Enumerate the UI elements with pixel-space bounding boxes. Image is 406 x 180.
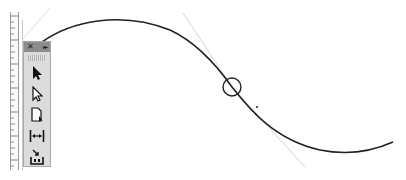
direction-handle-lower[interactable] xyxy=(232,87,305,167)
gap-tool[interactable] xyxy=(27,127,47,145)
selection-tool[interactable] xyxy=(27,64,47,82)
solid-arrow-icon xyxy=(29,65,45,81)
page-icon xyxy=(29,107,45,123)
handle-line-left xyxy=(22,8,50,40)
vertical-ruler[interactable] xyxy=(10,12,19,170)
tools-panel: ✕ ▸▸ xyxy=(23,41,51,167)
panel-grip[interactable] xyxy=(28,55,46,61)
content-collector-tool[interactable] xyxy=(27,148,47,166)
gap-icon xyxy=(29,128,45,144)
close-icon[interactable]: ✕ xyxy=(27,42,34,52)
hollow-arrow-icon xyxy=(29,86,45,102)
bezier-path[interactable] xyxy=(42,20,393,153)
collapse-icon[interactable]: ▸▸ xyxy=(43,42,47,52)
document-canvas[interactable] xyxy=(0,0,406,180)
content-collector-icon xyxy=(29,149,45,165)
page-tool[interactable] xyxy=(27,106,47,124)
ruler-ticks xyxy=(11,12,18,170)
cursor-mark xyxy=(256,106,258,108)
direct-selection-tool[interactable] xyxy=(27,85,47,103)
panel-header[interactable]: ✕ ▸▸ xyxy=(24,42,50,52)
